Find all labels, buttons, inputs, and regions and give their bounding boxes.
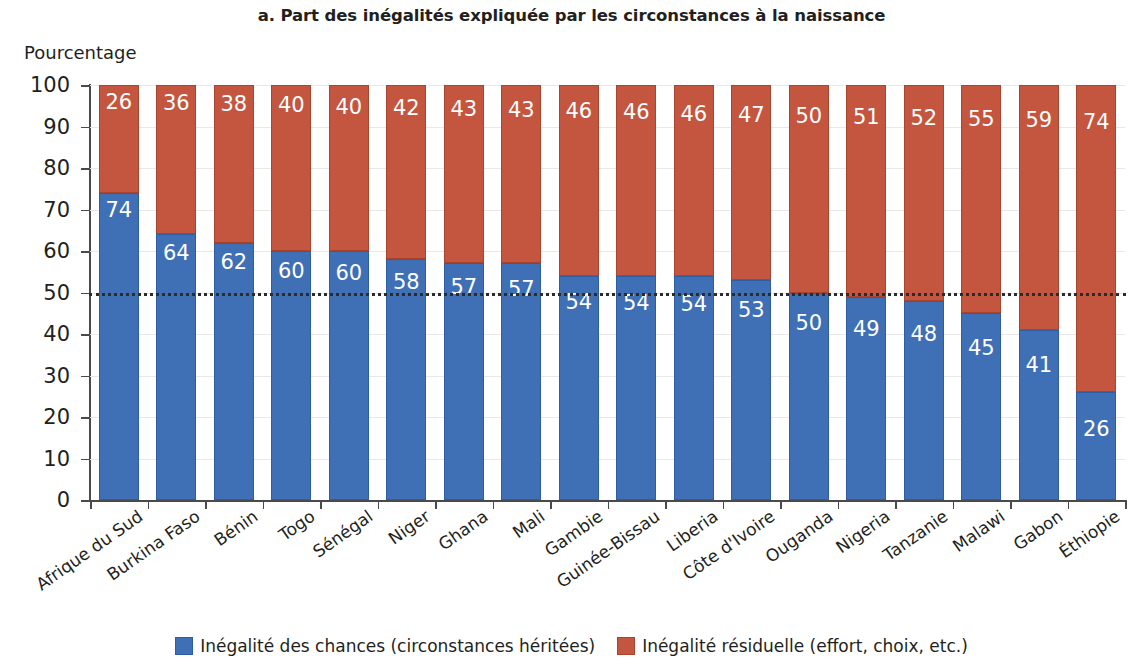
y-tick-mark	[81, 168, 90, 170]
bar-segment-opportunity[interactable]	[501, 263, 541, 500]
legend-item[interactable]: Inégalité résiduelle (effort, choix, etc…	[617, 636, 968, 656]
bar-segment-opportunity[interactable]	[156, 234, 196, 500]
y-tick-label: 100	[8, 73, 70, 97]
x-axis-category-label: Guinée-Bissau	[553, 506, 664, 592]
bar-segment-residual[interactable]	[386, 85, 426, 259]
chart-title: a. Part des inégalités expliquée par les…	[0, 6, 1143, 25]
bar-segment-opportunity[interactable]	[1019, 330, 1059, 500]
y-tick-mark	[81, 334, 90, 336]
bar-segment-opportunity[interactable]	[616, 276, 656, 500]
y-tick-label: 90	[8, 115, 70, 139]
y-tick-label: 70	[8, 198, 70, 222]
y-tick-mark	[81, 85, 90, 87]
bar-segment-residual[interactable]	[559, 85, 599, 276]
y-tick-mark	[81, 251, 90, 253]
bar-segment-opportunity[interactable]	[846, 297, 886, 500]
legend-swatch-blue-icon	[175, 637, 193, 655]
legend-label: Inégalité des chances (circonstances hér…	[200, 636, 595, 656]
legend-label: Inégalité résiduelle (effort, choix, etc…	[642, 636, 968, 656]
bar-segment-residual[interactable]	[271, 85, 311, 251]
bar-segment-opportunity[interactable]	[1076, 392, 1116, 500]
x-axis-category-label: Bénin	[210, 506, 261, 550]
x-axis-labels: Afrique du SudBurkina FasoBéninTogoSénég…	[0, 506, 1143, 626]
y-tick-label: 10	[8, 447, 70, 471]
bar-segment-opportunity[interactable]	[674, 276, 714, 500]
bar-segment-opportunity[interactable]	[731, 280, 771, 500]
x-axis-category-label: Ghana	[434, 506, 491, 554]
x-axis-category-label: Togo	[275, 506, 318, 545]
y-tick-label: 80	[8, 156, 70, 180]
y-tick-label: 30	[8, 364, 70, 388]
bar-segment-residual[interactable]	[214, 85, 254, 243]
bar-segment-residual[interactable]	[789, 85, 829, 293]
bar-segment-opportunity[interactable]	[214, 243, 254, 500]
bar-segment-residual[interactable]	[156, 85, 196, 234]
y-tick-label: 20	[8, 405, 70, 429]
y-tick-mark	[81, 459, 90, 461]
x-axis-category-label: Mali	[509, 506, 549, 542]
bar-segment-opportunity[interactable]	[329, 251, 369, 500]
x-axis-category-label: Malawi	[949, 506, 1009, 556]
bar-segment-residual[interactable]	[731, 85, 771, 280]
bar-segment-opportunity[interactable]	[99, 193, 139, 500]
bar-segment-residual[interactable]	[99, 85, 139, 193]
bar-segment-residual[interactable]	[444, 85, 484, 263]
y-tick-mark	[81, 210, 90, 212]
x-axis-category-label: Tanzanie	[879, 506, 951, 565]
chart-container: a. Part des inégalités expliquée par les…	[0, 0, 1143, 672]
legend-swatch-red-icon	[617, 637, 635, 655]
bar-segment-opportunity[interactable]	[789, 293, 829, 501]
bar-segment-opportunity[interactable]	[559, 276, 599, 500]
bar-segment-opportunity[interactable]	[444, 263, 484, 500]
bar-segment-residual[interactable]	[1076, 85, 1116, 392]
x-axis-category-label: Niger	[385, 506, 434, 549]
y-tick-label: 60	[8, 239, 70, 263]
bar-segment-residual[interactable]	[329, 85, 369, 251]
chart-legend: Inégalité des chances (circonstances hér…	[0, 636, 1143, 656]
bar-segment-residual[interactable]	[961, 85, 1001, 313]
bar-segment-opportunity[interactable]	[904, 301, 944, 500]
y-tick-label: 40	[8, 322, 70, 346]
x-axis-category-label: Sénégal	[309, 506, 377, 562]
y-tick-mark	[81, 127, 90, 129]
bar-segment-residual[interactable]	[846, 85, 886, 297]
bar-segment-residual[interactable]	[674, 85, 714, 276]
bar-segment-residual[interactable]	[501, 85, 541, 263]
y-tick-label: 50	[8, 281, 70, 305]
bar-segment-opportunity[interactable]	[271, 251, 311, 500]
y-tick-mark	[81, 376, 90, 378]
legend-item[interactable]: Inégalité des chances (circonstances hér…	[175, 636, 595, 656]
bar-segment-opportunity[interactable]	[961, 313, 1001, 500]
reference-line-50	[89, 293, 1126, 296]
x-axis-category-label: Éthiopie	[1055, 506, 1123, 562]
bar-segment-residual[interactable]	[904, 85, 944, 301]
y-tick-mark	[81, 500, 90, 502]
bar-segment-residual[interactable]	[616, 85, 656, 276]
y-axis-unit-label: Pourcentage	[24, 42, 137, 63]
y-tick-mark	[81, 417, 90, 419]
